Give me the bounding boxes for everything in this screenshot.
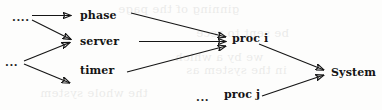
node-system: System xyxy=(331,67,376,78)
edge-phase-to-proc-i xyxy=(131,13,226,37)
node-phase: phase xyxy=(80,10,117,21)
node-proc-j: proc j xyxy=(224,89,260,100)
edge-timer-to-proc-i xyxy=(127,46,226,72)
node-server: server xyxy=(80,36,119,47)
proc-j-dots: ... xyxy=(196,92,209,103)
node-timer: timer xyxy=(80,65,114,76)
source-top-dots: .... xyxy=(12,12,30,23)
node-proc-i: proc i xyxy=(232,33,268,44)
edge-proc-j-to-system xyxy=(262,75,324,96)
edge-dots2-to-timer xyxy=(24,64,70,83)
edge-dots-to-server xyxy=(32,20,71,40)
edge-dots2-to-server xyxy=(24,43,70,62)
figure-canvas: ginning of the page be sent to rece we b… xyxy=(0,0,382,110)
source-bottom-dots: ... xyxy=(5,57,18,68)
edge-proc-i-to-system xyxy=(259,44,324,70)
arrow-layer xyxy=(0,0,382,110)
